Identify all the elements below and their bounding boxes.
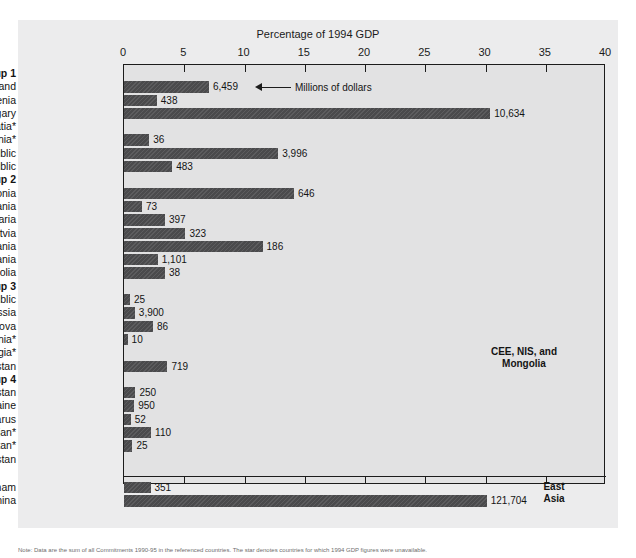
bar-row: Ukraine950	[124, 399, 604, 412]
bar-row: Albania186	[124, 240, 604, 253]
bar-slovak-republic	[124, 161, 172, 172]
x-tick-label-35: 35	[539, 46, 551, 58]
bar-value-estonia: 646	[298, 187, 315, 200]
bar-vietnam	[124, 482, 151, 493]
bar-value-mongolia: 38	[169, 266, 180, 279]
group-heading-row: Group 4	[124, 373, 604, 386]
bar-albania	[124, 241, 263, 252]
bar-poland	[124, 81, 209, 92]
bar-value-kazakstan: 719	[171, 360, 188, 373]
bar-value-moldova: 86	[157, 320, 168, 333]
bar-belarus	[124, 414, 131, 425]
bar-value-kyrgyz-republic: 25	[134, 293, 145, 306]
bar-russia	[124, 307, 135, 318]
row-label-russia: Russia	[0, 306, 16, 319]
row-label-kyrgyz-republic: Kyrgyz Republic	[0, 293, 16, 306]
bar-row: FYR Macedonia*36	[124, 133, 604, 146]
callout-label: Millions of dollars	[295, 81, 372, 94]
region-caption-cee: CEE, NIS, and Mongolia	[454, 346, 594, 370]
bar-moldova	[124, 321, 153, 332]
bar-row: Tajikistan*25	[124, 439, 604, 452]
bar-bulgaria	[124, 214, 165, 225]
row-label-group-1: Group 1	[0, 67, 16, 80]
row-label-kazakstan: Kazakstan	[0, 360, 16, 373]
bar-row: Romania1,101	[124, 253, 604, 266]
bar-row: Russia3,900	[124, 306, 604, 319]
bar-hungary	[124, 108, 490, 119]
row-label-romania: Romania	[0, 253, 16, 266]
row-label-turkmenistan: Turkmenistan	[0, 453, 16, 466]
group-heading-row: Group 1	[124, 67, 604, 80]
row-label-azerbaijan: Azerbaijan*	[0, 426, 16, 439]
bar-value-belarus: 52	[135, 413, 146, 426]
row-label-moldova: Moldova	[0, 320, 16, 333]
bar-value-poland: 6,459	[213, 80, 238, 93]
row-label-croatia: Croatia*	[0, 120, 16, 133]
row-label-uzbekistan: Uzbekistan	[0, 386, 16, 399]
bar-value-czech-republic: 3,996	[282, 147, 307, 160]
chart-figure: Percentage of 1994 GDP 0510152025303540 …	[18, 20, 618, 528]
bar-value-slovenia: 438	[161, 94, 178, 107]
row-label-hungary: Hungary	[0, 107, 16, 120]
bar-lithuania	[124, 201, 142, 212]
bar-fyr-macedonia	[124, 134, 149, 145]
bar-value-bulgaria: 397	[169, 213, 186, 226]
bar-estonia	[124, 188, 294, 199]
x-tick-label-20: 20	[358, 46, 370, 58]
bar-value-armenia: 10	[132, 333, 143, 346]
region-caption-east-line2: Asia	[543, 493, 564, 504]
bar-latvia	[124, 228, 185, 239]
row-label-group-3: Group 3	[0, 280, 16, 293]
bar-value-slovak-republic: 483	[176, 160, 193, 173]
bar-value-vietnam: 351	[155, 481, 172, 494]
bar-value-lithuania: 73	[146, 200, 157, 213]
bar-row: Armenia*10	[124, 333, 604, 346]
bar-czech-republic	[124, 148, 278, 159]
row-label-slovenia: Slovenia	[0, 94, 16, 107]
x-axis-tick-labels: 0510152025303540	[18, 46, 618, 62]
row-label-poland: Poland	[0, 80, 16, 93]
row-label-vietnam: Vietnam	[0, 481, 16, 494]
x-axis-title: Percentage of 1994 GDP	[18, 28, 618, 40]
bar-row: Slovak Republic483	[124, 160, 604, 173]
bar-uzbekistan	[124, 387, 135, 398]
bar-kyrgyz-republic	[124, 294, 130, 305]
row-label-ukraine: Ukraine	[0, 399, 16, 412]
bar-china	[124, 495, 487, 506]
region-caption-cee-line2: Mongolia	[502, 358, 546, 369]
row-label-tajikistan: Tajikistan*	[0, 439, 16, 452]
bar-row: Moldova86	[124, 320, 604, 333]
bar-row: Uzbekistan250	[124, 386, 604, 399]
plot-area: Group 1Poland6,459Slovenia438Hungary10,6…	[123, 64, 605, 484]
x-tick-label-15: 15	[298, 46, 310, 58]
row-label-fyr-macedonia: FYR Macedonia*	[0, 133, 16, 146]
x-tick-label-30: 30	[478, 46, 490, 58]
bar-value-romania: 1,101	[162, 253, 187, 266]
region-caption-east-line1: East	[543, 481, 564, 492]
row-label-armenia: Armenia*	[0, 333, 16, 346]
row-label-albania: Albania	[0, 240, 16, 253]
bar-row: Latvia323	[124, 227, 604, 240]
region-caption-cee-line1: CEE, NIS, and	[491, 346, 557, 357]
x-tick-label-0: 0	[120, 46, 126, 58]
bar-slovenia	[124, 95, 157, 106]
group-heading-row: Group 2	[124, 173, 604, 186]
row-label-group-4: Group 4	[0, 373, 16, 386]
bar-romania	[124, 254, 158, 265]
row-label-belarus: Belarus	[0, 413, 16, 426]
bar-rows-main: Group 1Poland6,459Slovenia438Hungary10,6…	[124, 67, 604, 466]
x-tick-label-25: 25	[418, 46, 430, 58]
bar-row: Hungary10,634	[124, 107, 604, 120]
bar-row: Croatia*	[124, 120, 604, 133]
x-tick-label-10: 10	[237, 46, 249, 58]
row-label-group-2: Group 2	[0, 173, 16, 186]
row-label-georgia: Georgia*	[0, 346, 16, 359]
row-label-mongolia: Mongolia	[0, 266, 16, 279]
bar-kazakstan	[124, 361, 167, 372]
region-caption-east-asia: East Asia	[514, 481, 594, 505]
bar-row: Czech Republic3,996	[124, 147, 604, 160]
footnote: Note: Data are the sum of all Commitment…	[18, 546, 618, 558]
bar-row: Estonia646	[124, 187, 604, 200]
bar-value-fyr-macedonia: 36	[153, 133, 164, 146]
group-heading-row: Group 3	[124, 280, 604, 293]
